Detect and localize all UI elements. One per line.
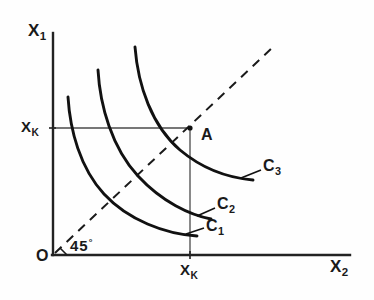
origin-label: O (36, 248, 48, 264)
x-axis-label-text: X (330, 257, 342, 276)
x-axis-label: X2 (330, 258, 348, 279)
curve-label-c1-text: C (206, 217, 218, 234)
point-a-marker (187, 125, 192, 130)
point-a-label: A (201, 127, 213, 143)
degree-symbol: ° (89, 237, 94, 247)
curve-label-c1-subscript: 1 (218, 225, 224, 237)
angle-label-45-degrees: 45° (70, 238, 93, 253)
indifference-curve-figure: X1 X2 XK XK O 45° A C1 C2 C3 (0, 0, 374, 300)
diagonal-ray-group (55, 47, 273, 255)
angle-value-text: 45 (70, 237, 89, 254)
leader-line-c2 (197, 208, 215, 216)
y-axis-label-text: X (28, 21, 40, 40)
y-axis-tick-label-xk: XK (21, 119, 39, 138)
figure-canvas (0, 0, 374, 300)
leader-line-c3 (241, 170, 261, 178)
point-a-group (187, 125, 192, 130)
curve-label-c2-text: C (217, 195, 229, 212)
curve-label-c2: C2 (217, 196, 235, 215)
curve-label-c1: C1 (206, 218, 224, 237)
x-axis-label-subscript: 2 (342, 266, 348, 278)
y-tick-label-subscript: K (32, 127, 39, 138)
curve-label-c3-text: C (263, 157, 275, 174)
y-axis-label-subscript: 1 (40, 30, 46, 42)
leader-line-c1 (186, 228, 204, 234)
guide-lines-group (53, 128, 191, 255)
curve-label-c3-subscript: 3 (275, 165, 281, 177)
curve-label-c2-subscript: 2 (229, 203, 235, 215)
x-tick-label-text: X (180, 261, 191, 278)
forty-five-degree-dashed-ray (55, 47, 273, 253)
axes-group (52, 33, 350, 255)
y-tick-label-text: X (21, 118, 32, 135)
curve-c1 (68, 97, 197, 236)
x-tick-label-subscript: K (191, 270, 198, 281)
curve-label-c3: C3 (263, 158, 281, 177)
x-axis-tick-label-xk: XK (180, 262, 198, 281)
y-axis-label: X1 (28, 22, 46, 43)
